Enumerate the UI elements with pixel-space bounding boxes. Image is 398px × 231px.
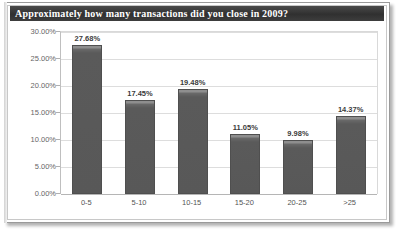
chart-figure: Approximately how many transactions did … <box>0 0 398 231</box>
y-axis-tick <box>56 31 60 32</box>
x-axis-category-label: 15-20 <box>235 198 254 207</box>
bar[interactable] <box>178 89 208 194</box>
y-axis-tick <box>56 139 60 140</box>
y-axis-tick <box>56 166 60 167</box>
x-axis-category-label: 20-25 <box>287 198 306 207</box>
y-axis-tick-label: 30.00% <box>10 27 56 36</box>
y-axis-tick-label: 20.00% <box>10 81 56 90</box>
y-axis-tick-label: 15.00% <box>10 108 56 117</box>
plot-area: 27.68%17.45%19.48%11.05%9.98%14.37% <box>60 31 378 194</box>
x-axis-category-label: 5-10 <box>131 198 146 207</box>
bar[interactable] <box>125 100 155 194</box>
bar-value-label: 19.48% <box>180 78 205 87</box>
y-axis-tick <box>56 58 60 59</box>
bar-value-label: 11.05% <box>233 123 258 132</box>
bar-slot: 14.37% <box>324 32 377 194</box>
bar-value-label: 9.98% <box>287 129 308 138</box>
y-axis-tick <box>56 193 60 194</box>
x-axis-category-label: >25 <box>343 198 356 207</box>
bar[interactable] <box>283 140 313 194</box>
y-axis-tick <box>56 85 60 86</box>
x-axis-category-label: 10-15 <box>182 198 201 207</box>
bar-slot: 27.68% <box>61 32 114 194</box>
bar-value-label: 27.68% <box>75 34 100 43</box>
bar-slot: 11.05% <box>219 32 272 194</box>
chart-title: Approximately how many transactions did … <box>15 6 288 21</box>
frame-left-gutter <box>4 2 7 223</box>
y-axis-tick-label: 10.00% <box>10 135 56 144</box>
bar[interactable] <box>336 116 366 194</box>
x-axis-category-label: 0-5 <box>81 198 92 207</box>
y-axis-tick-label: 25.00% <box>10 54 56 63</box>
gridline <box>61 194 377 195</box>
y-axis-tick <box>56 112 60 113</box>
y-axis-tick-label: 0.00% <box>10 189 56 198</box>
y-axis-tick-label: 5.00% <box>10 162 56 171</box>
bar-slot: 9.98% <box>272 32 325 194</box>
bar[interactable] <box>72 45 102 194</box>
chart-title-bar: Approximately how many transactions did … <box>10 6 384 21</box>
bar-value-label: 17.45% <box>127 89 152 98</box>
bar-value-label: 14.37% <box>338 105 363 114</box>
bar-slot: 19.48% <box>166 32 219 194</box>
x-axis: 0-55-1010-1515-2020-25>25 <box>60 198 376 214</box>
bar[interactable] <box>230 134 260 194</box>
bar-slot: 17.45% <box>114 32 167 194</box>
bar-series: 27.68%17.45%19.48%11.05%9.98%14.37% <box>61 32 377 194</box>
chart-canvas: 27.68%17.45%19.48%11.05%9.98%14.37% 0.00… <box>10 23 384 216</box>
